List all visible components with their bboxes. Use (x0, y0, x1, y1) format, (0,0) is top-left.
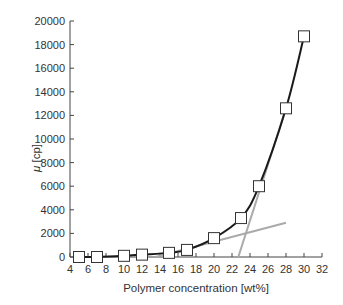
x-tick-label: 16 (172, 263, 184, 275)
y-tick-label: 4000 (41, 204, 65, 216)
square-marker-icon (236, 213, 247, 224)
y-tick-label: 16000 (34, 62, 65, 74)
y-tick-label: 18000 (34, 39, 65, 51)
square-marker-icon (182, 244, 193, 255)
series-lines (79, 36, 304, 257)
square-marker-icon (254, 181, 265, 192)
x-tick-label: 4 (67, 263, 73, 275)
y-tick-label: 6000 (41, 180, 65, 192)
x-tick-label: 14 (154, 263, 166, 275)
viscosity-chart: 0200040006000800010000120001400016000180… (0, 0, 343, 305)
square-marker-icon (119, 250, 130, 261)
square-marker-icon (209, 233, 220, 244)
axes: 0200040006000800010000120001400016000180… (34, 15, 328, 275)
y-tick-label: 14000 (34, 86, 65, 98)
y-tick-label: 20000 (34, 15, 65, 27)
x-tick-label: 10 (118, 263, 130, 275)
x-tick-label: 26 (262, 263, 274, 275)
x-tick-label: 30 (298, 263, 310, 275)
x-tick-label: 6 (85, 263, 91, 275)
square-marker-icon (164, 247, 175, 258)
x-tick-label: 12 (136, 263, 148, 275)
square-marker-icon (137, 249, 148, 260)
y-axis-label: μ [cp] (30, 144, 42, 173)
square-marker-icon (299, 31, 310, 42)
y-tick-label: 8000 (41, 157, 65, 169)
x-tick-label: 22 (226, 263, 238, 275)
x-tick-label: 20 (208, 263, 220, 275)
x-tick-label: 24 (244, 263, 256, 275)
x-tick-label: 32 (316, 263, 328, 275)
y-tick-label: 10000 (34, 133, 65, 145)
x-tick-label: 18 (190, 263, 202, 275)
square-marker-icon (92, 252, 103, 263)
y-tick-label: 2000 (41, 227, 65, 239)
x-tick-label: 28 (280, 263, 292, 275)
y-axis-unit: [cp] (30, 144, 42, 166)
series-line-viscosity (79, 36, 304, 257)
y-tick-label: 12000 (34, 109, 65, 121)
chart-canvas: 0200040006000800010000120001400016000180… (0, 0, 343, 305)
y-tick-label: 0 (59, 251, 65, 263)
square-marker-icon (281, 103, 292, 114)
x-tick-label: 8 (103, 263, 109, 275)
x-axis-label: Polymer concentration [wt%] (123, 282, 269, 294)
square-marker-icon (74, 252, 85, 263)
